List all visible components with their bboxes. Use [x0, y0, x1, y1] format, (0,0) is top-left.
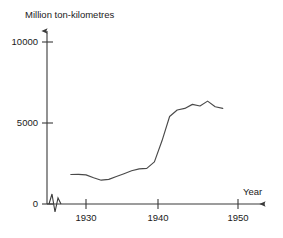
y-tick-label-0: 0 — [0, 198, 38, 209]
x-tick-label-1950: 1950 — [218, 212, 258, 223]
chart-container: Million ton-kilometres Year 10000 5000 0… — [0, 0, 283, 238]
y-tick-label-10000: 10000 — [0, 36, 38, 47]
data-series-line — [71, 101, 223, 180]
x-axis-title: Year — [243, 186, 262, 197]
y-tick-label-5000: 5000 — [0, 117, 38, 128]
x-tick-label-1930: 1930 — [66, 212, 106, 223]
x-tick-label-1940: 1940 — [138, 212, 178, 223]
chart-canvas — [0, 0, 283, 238]
y-axis-title: Million ton-kilometres — [25, 9, 114, 20]
axis-break-zigzag — [49, 194, 61, 212]
